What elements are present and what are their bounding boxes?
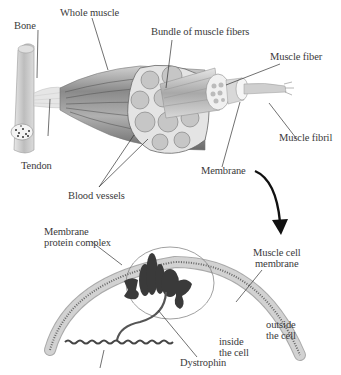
label-blood-vessels: Blood vessels: [68, 190, 125, 201]
bone: [11, 44, 34, 153]
label-bone: Bone: [14, 20, 36, 31]
label-bundle-of-muscle-fibers: Bundle of muscle fibers: [151, 26, 249, 37]
label-inside-the-cell-line1: inside: [219, 336, 243, 347]
muscle-fiber: [206, 74, 248, 110]
label-outside-the-cell-line2: the cell: [266, 330, 296, 341]
label-muscle-fibril: Muscle fibril: [279, 132, 332, 143]
label-whole-muscle: Whole muscle: [60, 7, 119, 18]
muscle-fibril: [244, 82, 294, 95]
label-muscle-cell-membrane-line2: membrane: [255, 258, 299, 269]
label-membrane: Membrane: [201, 165, 246, 176]
dystrophin: [117, 292, 166, 340]
label-membrane-protein-complex-line2: protein complex: [44, 237, 111, 248]
actin-filament: [65, 341, 173, 344]
label-tendon: Tendon: [21, 160, 52, 171]
zoom-arrow: [255, 171, 288, 235]
label-membrane-protein-complex-line1: Membrane: [44, 226, 89, 237]
label-muscle-cell-membrane-line1: Muscle cell: [253, 247, 301, 258]
label-dystrophin: Dystrophin: [180, 357, 226, 368]
label-outside-the-cell-line1: outside: [266, 319, 296, 330]
label-muscle-fiber: Muscle fiber: [270, 51, 322, 62]
